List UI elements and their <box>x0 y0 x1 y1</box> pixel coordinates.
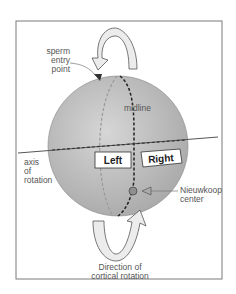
right-label: Right <box>148 152 175 165</box>
axis-label: axis of rotation <box>24 158 52 185</box>
left-label: Left <box>104 155 123 166</box>
midline-label: midline <box>124 104 151 113</box>
nieuwkoop-dot <box>129 187 137 195</box>
sphere <box>48 76 188 216</box>
nieuwkoop-label: Nieuwkoop center <box>180 186 222 204</box>
sperm-entry-label: sperm entry point <box>40 47 70 74</box>
direction-label: Direction of cortical rotation <box>84 263 156 281</box>
cortical-rotation-diagram: Left Right <box>0 0 236 294</box>
